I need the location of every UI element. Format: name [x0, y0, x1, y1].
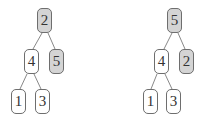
tree-after-left-node: 4: [154, 49, 169, 74]
tree-before-left-node: 4: [24, 49, 39, 74]
edge-after-root-right: [178, 33, 185, 49]
edge-after-root-left: [164, 33, 172, 49]
edge-after-left-leftleft: [151, 74, 157, 89]
edge-before-root-left: [33, 33, 42, 49]
edge-after-left-leftright: [165, 74, 172, 89]
tree-after-left-right-node: 3: [166, 89, 181, 114]
tree-before-left-right-node: 3: [35, 89, 50, 114]
edge-before-root-right: [48, 33, 55, 49]
tree-after-left-left-node: 1: [143, 89, 158, 114]
tree-after-right-node: 2: [179, 49, 194, 74]
edge-before-left-leftleft: [20, 74, 27, 89]
edge-before-left-leftright: [34, 74, 41, 89]
tree-before-root-node: 2: [37, 8, 52, 33]
tree-before-right-node: 5: [49, 49, 64, 74]
tree-before-left-left-node: 1: [11, 89, 26, 114]
tree-after-root-node: 5: [167, 8, 182, 33]
